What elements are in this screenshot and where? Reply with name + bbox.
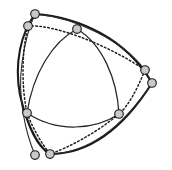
vertex-node-bottom-middle — [46, 150, 55, 159]
dotted-upper-left-edge-path — [23, 26, 28, 113]
vertex-node-right-lower — [148, 79, 157, 88]
vertex-nodes-group — [23, 10, 157, 160]
inner-arcs-group — [27, 29, 119, 127]
dotted-right-edge-path — [119, 70, 145, 114]
dotted-curves-group — [23, 26, 145, 154]
reuleaux-triangle-diagram — [0, 0, 172, 170]
vertex-node-center-right — [115, 110, 124, 119]
dotted-top-edge-path — [28, 26, 145, 70]
vertex-node-left-middle — [23, 109, 32, 118]
geometric-figure-container — [0, 0, 172, 170]
vertex-node-top-middle — [73, 25, 82, 34]
vertex-node-top-apex — [31, 10, 40, 19]
vertex-node-bottom-left — [31, 151, 40, 160]
vertex-node-right-upper — [141, 66, 150, 75]
inner-arc-top-left-path — [27, 29, 77, 113]
vertex-node-upper-left — [24, 22, 33, 31]
